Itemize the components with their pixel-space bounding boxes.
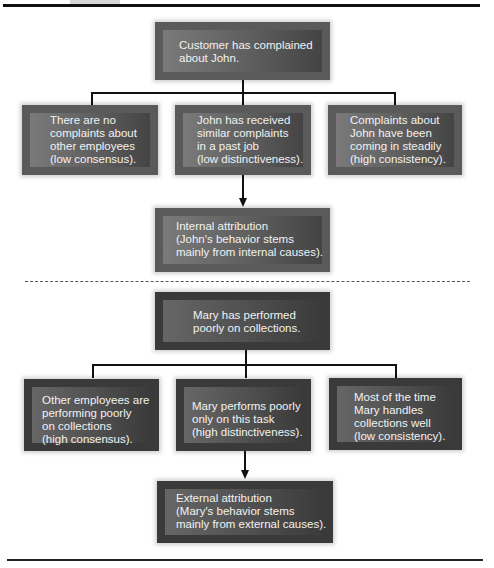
john-distinctiveness-text: John has received similar complaints in … (197, 114, 303, 166)
external-attribution-box: External attribution (Mary's behavior st… (157, 481, 333, 543)
john-consensus-text: There are no complaints about other empl… (50, 114, 137, 166)
john-branch-left (91, 92, 93, 105)
external-attribution-text: External attribution (Mary's behavior st… (176, 492, 326, 531)
mary-distinctiveness-box: Mary performs poorly only on this task (… (176, 379, 311, 451)
section-divider (25, 281, 470, 282)
mary-consistency-text: Most of the time Mary handles collection… (354, 391, 445, 443)
john-consistency-box: Complaints about John have been coming i… (328, 105, 462, 175)
mary-root-text: Mary has performed poorly on collections… (193, 309, 300, 335)
john-root-text: Customer has complained about John. (179, 39, 313, 65)
mary-branch-line (92, 364, 396, 366)
bottom-rule (7, 559, 483, 561)
john-branch-right (394, 92, 396, 105)
john-arrow-shaft (242, 175, 244, 199)
john-root-box: Customer has complained about John. (155, 22, 330, 80)
mary-branch-right (395, 364, 397, 378)
top-rule (3, 4, 480, 7)
mary-root-box: Mary has performed poorly on collections… (155, 292, 330, 350)
john-distinctiveness-box: John has received similar complaints in … (175, 105, 311, 175)
mary-consistency-box: Most of the time Mary handles collection… (329, 378, 462, 450)
mary-arrow-shaft (244, 451, 246, 471)
mary-consensus-text: Other employees are performing poorly on… (42, 394, 149, 446)
internal-attribution-text: Internal attribution (John's behavior st… (176, 220, 323, 259)
arrow-down-icon (241, 470, 249, 479)
mary-root-connector (245, 350, 247, 365)
john-consensus-box: There are no complaints about other empl… (22, 105, 158, 175)
john-consistency-text: Complaints about John have been coming i… (350, 114, 446, 166)
arrow-down-icon (239, 198, 247, 207)
john-branch-mid (242, 92, 244, 105)
internal-attribution-box: Internal attribution (John's behavior st… (155, 208, 330, 272)
mary-consensus-box: Other employees are performing poorly on… (24, 379, 159, 451)
header-tab (70, 0, 120, 4)
mary-distinctiveness-text: Mary performs poorly only on this task (… (192, 400, 303, 439)
mary-branch-left (92, 364, 94, 378)
mary-branch-mid (245, 364, 247, 378)
